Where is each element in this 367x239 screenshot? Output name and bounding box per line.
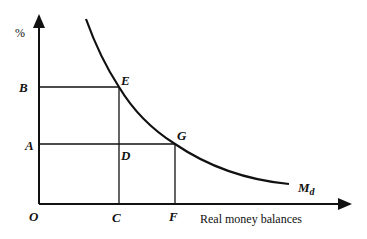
x-axis-label: Real money balances	[200, 212, 302, 226]
label-A: A	[24, 138, 34, 153]
label-E: E	[120, 73, 130, 88]
y-axis-label: %	[15, 26, 25, 40]
curve-label: Md	[297, 180, 316, 197]
money-demand-curve	[86, 19, 289, 184]
label-F: F	[168, 209, 178, 224]
label-G: G	[177, 128, 187, 143]
curve-label-main: M	[297, 180, 310, 195]
label-C: C	[112, 210, 121, 225]
curve-label-subscript: d	[310, 186, 316, 197]
money-demand-diagram: % B A O C F E G D Md Real money balances	[0, 0, 367, 239]
label-O: O	[29, 209, 39, 224]
label-D: D	[120, 148, 131, 163]
label-B: B	[18, 80, 28, 95]
